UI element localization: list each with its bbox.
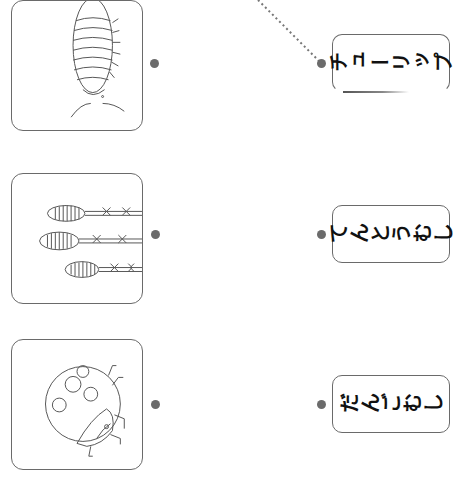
picture-card-ladybug[interactable]: [11, 339, 143, 470]
word-card-ladybug[interactable]: てんとうむし: [332, 205, 450, 263]
word-card-tulip[interactable]: チューリップ: [332, 34, 450, 92]
picture-card-tulip[interactable]: [11, 173, 143, 304]
word-card-pill-bug[interactable]: だんごむし: [332, 375, 450, 433]
tulip-icon: [12, 174, 142, 303]
pill-bug-icon: [12, 1, 142, 130]
picture-dot-3[interactable]: [151, 400, 160, 409]
word-dot-1[interactable]: [317, 59, 326, 68]
picture-card-pill-bug[interactable]: [11, 0, 143, 131]
picture-dot-1[interactable]: [150, 59, 159, 68]
ladybug-icon: [12, 340, 142, 469]
word-label: チューリップ: [328, 53, 454, 73]
word-dot-2[interactable]: [317, 230, 326, 239]
word-label: だんごむし: [339, 394, 444, 414]
word-dot-3[interactable]: [317, 400, 326, 409]
word-label: てんとうむし: [328, 224, 454, 244]
picture-dot-2[interactable]: [151, 230, 160, 239]
